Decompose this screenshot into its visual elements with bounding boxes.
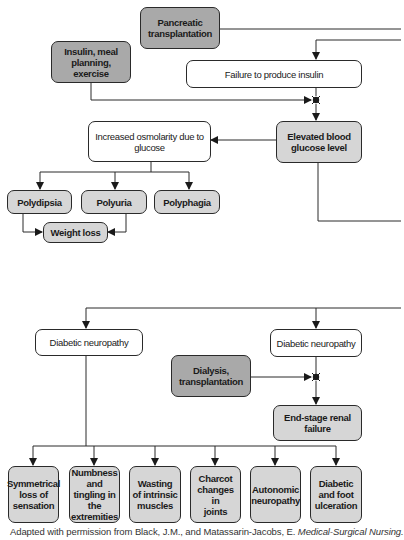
node-label: Polydipsia [17, 197, 62, 208]
node-label: Pancreatic transplantation [148, 17, 212, 39]
outcome-diabetic-foot-ulceration-node: Diabetic and foot ulceration [310, 466, 362, 523]
outcome-symmetrical-loss-node: Symmetrical loss of sensation [8, 466, 59, 523]
outcome-numbness-tingling-node: Numbness and tingling in the extremities [69, 466, 120, 523]
node-label: Insulin, meal planning, exercise [54, 46, 128, 79]
node-label: End-stage renal failure [284, 412, 351, 434]
dialysis-transplantation-node: Dialysis, transplantation [171, 355, 251, 397]
caption-book-title: Medical-Surgical Nursing. [298, 526, 404, 537]
weight-loss-node: Weight loss [43, 222, 108, 243]
node-label: Diabetic neuropathy [50, 337, 129, 348]
node-label: Wasting of intrinsic muscles [133, 478, 178, 511]
node-label: Diabetic and foot ulceration [315, 478, 357, 511]
node-label: Charcot changes in joints [193, 473, 238, 517]
elevated-blood-glucose-node: Elevated blood glucose level [276, 121, 362, 163]
node-label: Numbness and tingling in the extremities [71, 467, 118, 522]
source-caption: Adapted with permission from Black, J.M.… [10, 526, 404, 537]
outcome-autonomic-neuropathy-node: Autonomic neuropathy [250, 466, 301, 523]
polyuria-node: Polyuria [81, 190, 147, 214]
node-label: Polyuria [96, 197, 131, 208]
increased-osmolarity-node: Increased osmolarity due to glucose [88, 121, 211, 162]
caption-prefix: Adapted with permission from Black, J.M.… [10, 526, 298, 537]
diabetic-neuropathy-left-node: Diabetic neuropathy [35, 329, 143, 356]
pancreatic-transplantation-node: Pancreatic transplantation [140, 7, 220, 49]
node-label: Diabetic neuropathy [277, 338, 356, 349]
end-stage-renal-failure-node: End-stage renal failure [273, 405, 362, 441]
polyphagia-node: Polyphagia [154, 190, 220, 214]
node-label: Polyphagia [163, 197, 211, 208]
node-label: Symmetrical loss of sensation [7, 478, 60, 511]
outcome-wasting-muscles-node: Wasting of intrinsic muscles [129, 466, 181, 523]
node-label: Weight loss [51, 227, 101, 238]
insulin-meal-planning-node: Insulin, meal planning, exercise [51, 41, 131, 83]
diabetic-neuropathy-right-node: Diabetic neuropathy [270, 329, 362, 357]
node-label: Autonomic neuropathy [251, 484, 300, 506]
node-label: Dialysis, transplantation [179, 365, 243, 387]
failure-to-produce-insulin-node: Failure to produce insulin [186, 60, 362, 88]
node-label: Elevated blood glucose level [287, 131, 350, 153]
outcome-charcot-changes-node: Charcot changes in joints [190, 466, 241, 523]
node-label: Failure to produce insulin [225, 69, 323, 80]
polydipsia-node: Polydipsia [7, 190, 72, 214]
node-label: Increased osmolarity due to glucose [95, 131, 204, 153]
